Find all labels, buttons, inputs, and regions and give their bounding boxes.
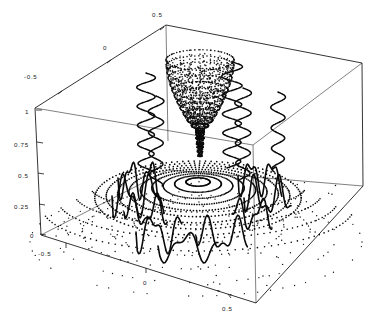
three-d-plot-canvas: -0.5 0 0.5 1 0.75 0.5 0.25 0 -0.5 0 0.5 (0, 0, 382, 322)
plot-background (0, 0, 382, 322)
tick-label-top-05: 0.5 (152, 11, 163, 18)
tick-label-z-1: 1 (25, 108, 29, 115)
tick-label-z-075: 0.75 (14, 141, 29, 148)
tick-label-bottom-neg05: -0.5 (38, 250, 51, 257)
tick-label-z-025: 0.25 (14, 203, 29, 210)
tick-label-topleft-0: 0 (103, 44, 107, 51)
tick-label-topleft-neg05: -0.5 (24, 73, 37, 80)
tick-label-z-05: 0.5 (18, 172, 29, 179)
plot-root: -0.5 0 0.5 1 0.75 0.5 0.25 0 -0.5 0 0.5 (0, 0, 382, 322)
tick-label-bottom-0: 0 (143, 279, 147, 286)
tick-label-bottomright-05: 0.5 (222, 305, 233, 312)
